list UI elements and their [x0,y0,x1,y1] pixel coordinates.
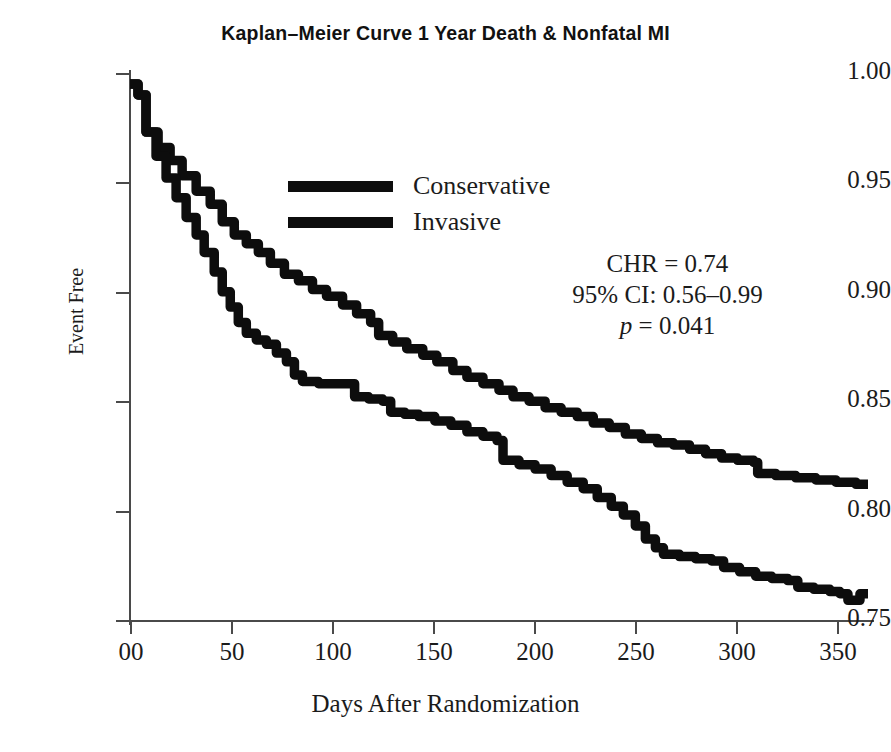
legend-swatch-icon [288,217,393,228]
x-tick-label: 200 [485,638,585,666]
y-tick-mark [116,73,130,75]
legend-item-invasive: Invasive [288,204,550,240]
legend-swatch-icon [288,181,393,192]
y-axis-title: Event Free [65,212,88,412]
stat-confidence-interval: 95% CI: 0.56–0.99 [525,279,810,310]
stat-chr: CHR = 0.74 [525,248,810,279]
statistics-annotation: CHR = 0.74 95% CI: 0.56–0.99 p = 0.041 [525,248,810,341]
y-tick-mark [116,620,130,622]
y-tick-mark [116,182,130,184]
x-axis-title: Days After Randomization [0,690,891,718]
stat-p-value: p = 0.041 [525,310,810,341]
x-tick-mark [433,621,435,634]
x-tick-mark [837,621,839,634]
legend-item-conservative: Conservative [288,168,550,204]
x-tick-mark [130,621,132,634]
x-tick-label: 150 [384,638,484,666]
legend-label: Conservative [413,171,550,201]
x-tick-label: 00 [81,638,181,666]
y-tick-label: 0.95 [799,166,891,194]
y-axis-line [129,70,131,625]
legend: Conservative Invasive [288,168,550,240]
y-tick-label: 0.75 [799,604,891,632]
x-tick-mark [231,621,233,634]
y-tick-label: 0.80 [799,495,891,523]
y-tick-label: 1.00 [799,57,891,85]
x-tick-label: 100 [283,638,383,666]
y-tick-mark [116,511,130,513]
x-tick-label: 300 [687,638,787,666]
x-tick-label: 50 [182,638,282,666]
page-title: Kaplan–Meier Curve 1 Year Death & Nonfat… [0,22,891,45]
legend-label: Invasive [413,207,501,237]
x-tick-mark [534,621,536,634]
x-tick-label: 350 [788,638,888,666]
p-value-text: = 0.041 [632,312,715,339]
x-tick-label: 250 [586,638,686,666]
x-axis-line [129,620,874,622]
y-tick-label: 0.85 [799,385,891,413]
curve-invasive [130,84,868,600]
y-tick-mark [116,292,130,294]
kaplan-meier-chart-page: Kaplan–Meier Curve 1 Year Death & Nonfat… [0,0,891,752]
x-tick-mark [736,621,738,634]
x-tick-mark [635,621,637,634]
y-tick-label: 0.90 [799,276,891,304]
p-symbol: p [620,312,633,339]
x-tick-mark [332,621,334,634]
y-tick-mark [116,401,130,403]
